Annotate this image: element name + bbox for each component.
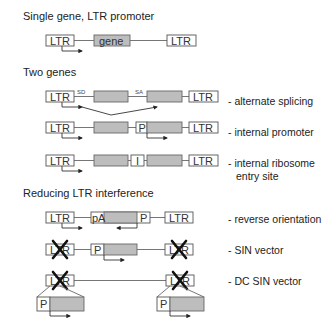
transcription-arrow-icon (62, 102, 82, 107)
transcription-arrow-icon (147, 133, 167, 138)
row-ires: LTR I LTR (46, 155, 218, 172)
gene-box (94, 155, 128, 166)
ltr-text: LTR (193, 155, 213, 167)
vector-diagram: LTR gene LTR LTR SD SA LTR LTR P LTR (0, 0, 331, 325)
gene-box (147, 91, 182, 102)
gene-box (94, 91, 128, 102)
gene-box (50, 297, 84, 311)
row-reverse-orientation: LTR pA P LTR (46, 212, 193, 229)
transcription-arrow-icon (62, 46, 82, 51)
gene-box (94, 122, 128, 133)
splice-acceptor-text: SA (135, 89, 143, 95)
ltr-text: LTR (171, 35, 191, 47)
row-internal-promoter: LTR P LTR (46, 122, 218, 139)
row-alternate-splicing: LTR SD SA LTR (46, 89, 218, 115)
ltr-text: LTR (50, 122, 70, 134)
promoter-text: P (40, 298, 47, 310)
reverse-transcription-arrow-icon (117, 223, 137, 228)
ltr-text: LTR (50, 91, 70, 103)
polya-text: pA (92, 212, 106, 224)
row-single-gene: LTR gene LTR (46, 35, 196, 52)
promoter-text: P (94, 244, 101, 256)
ltr-text: LTR (50, 35, 70, 47)
gene-box (104, 244, 137, 255)
transcription-arrow-icon (62, 166, 82, 171)
promoter-text: P (160, 298, 167, 310)
gene-text: gene (99, 35, 123, 47)
ires-text: I (136, 155, 139, 167)
promoter-text: P (140, 212, 147, 224)
ltr-text: LTR (50, 212, 70, 224)
ltr-text: LTR (193, 122, 213, 134)
ltr-text: LTR (169, 212, 189, 224)
ltr-text: LTR (193, 91, 213, 103)
transcription-arrow-icon (62, 133, 82, 138)
transcription-arrow-icon (50, 311, 70, 316)
promoter-text: P (139, 122, 146, 134)
splice-donor-text: SD (77, 89, 86, 95)
gene-box (104, 212, 137, 223)
gene-box (147, 122, 182, 133)
ltr-text: LTR (50, 155, 70, 167)
transcription-arrow-icon (62, 223, 82, 228)
gene-box (147, 155, 182, 166)
gene-box (170, 297, 204, 311)
transcription-arrow-icon (104, 255, 124, 260)
splice-arrow-icon (82, 107, 157, 115)
transcription-arrow-icon (170, 311, 190, 316)
row-sin-vector: LTR P LTR (46, 241, 193, 260)
row-dc-sin-vector: LTR LTR P P (37, 272, 204, 316)
